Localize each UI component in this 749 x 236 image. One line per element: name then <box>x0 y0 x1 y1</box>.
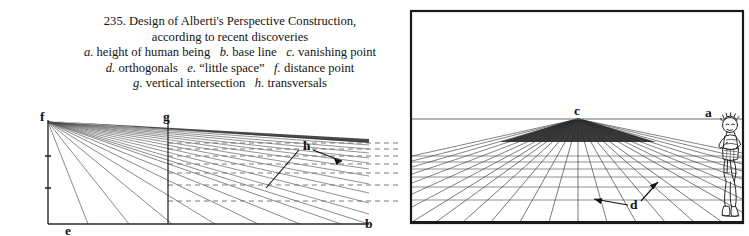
label-b-base-line: b <box>365 216 373 231</box>
figure-235-root: 235. Design of Alberti's Perspective Con… <box>0 0 749 236</box>
figure-plate: f g b e h <box>0 0 749 236</box>
label-g-vertical-intersection: g <box>163 109 170 124</box>
left-panel-group: f g b e h <box>40 109 399 236</box>
right-panel-group: c a d <box>411 11 743 223</box>
label-h-transversals: h <box>303 138 311 153</box>
label-e-little-space: e <box>65 223 71 236</box>
label-c-vanishing-point: c <box>574 103 580 118</box>
label-a-human-height: a <box>705 105 712 120</box>
label-f-distance-point: f <box>40 109 45 124</box>
label-d-orthogonals: d <box>630 197 638 212</box>
